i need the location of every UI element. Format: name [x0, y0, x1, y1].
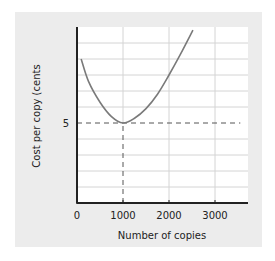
y-tick-label: 5: [63, 118, 69, 129]
x-tick-labels: 0100020003000: [74, 210, 228, 221]
y-axis-label: Cost per copy (cents: [31, 64, 42, 167]
x-tick-label: 1000: [110, 210, 135, 221]
y-tick-labels: 5: [63, 118, 69, 129]
cost-curve-chart: 0100020003000 5 Number of copies Cost pe…: [0, 0, 275, 261]
x-tick-label: 2000: [156, 210, 181, 221]
x-tick-label: 0: [74, 210, 80, 221]
plot-area: [77, 27, 248, 203]
x-axis-label: Number of copies: [118, 230, 206, 241]
x-tick-label: 3000: [202, 210, 227, 221]
